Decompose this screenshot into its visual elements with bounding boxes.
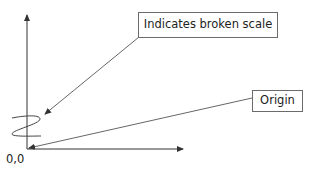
origin-callout: Origin <box>252 90 303 112</box>
origin-coordinate-label: 0,0 <box>6 152 24 166</box>
broken-scale-callout: Indicates broken scale <box>138 12 278 38</box>
broken-scale-leader <box>45 37 139 114</box>
broken-scale-callout-label: Indicates broken scale <box>144 19 273 31</box>
origin-leader <box>29 98 252 148</box>
origin-callout-label: Origin <box>260 95 295 107</box>
